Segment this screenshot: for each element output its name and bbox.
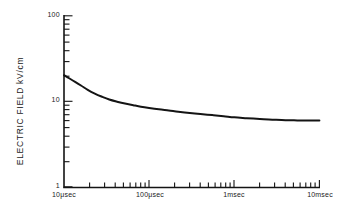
x-axis-ticks: [90, 180, 320, 188]
x-tick-label-1msec: 1msec: [211, 191, 257, 198]
y-tick-label-10: 10: [28, 96, 60, 103]
x-tick-label-100usec: 100μsec: [124, 191, 176, 198]
y-axis-title: ELECTRIC FIELD kV/cm: [15, 56, 25, 164]
x-tick-label-10msec: 10msec: [297, 191, 343, 198]
y-axis-title-wrap: ELECTRIC FIELD kV/cm: [10, 0, 30, 221]
y-axis-ticks: [64, 16, 73, 187]
chart-figure: ELECTRIC FIELD kV/cm 100 10 1 10μsec 100…: [0, 0, 356, 221]
y-tick-label-1: 1: [28, 182, 60, 189]
data-series-line: [64, 75, 319, 120]
y-tick-label-100: 100: [28, 11, 60, 18]
x-tick-label-10usec: 10μsec: [40, 191, 88, 198]
